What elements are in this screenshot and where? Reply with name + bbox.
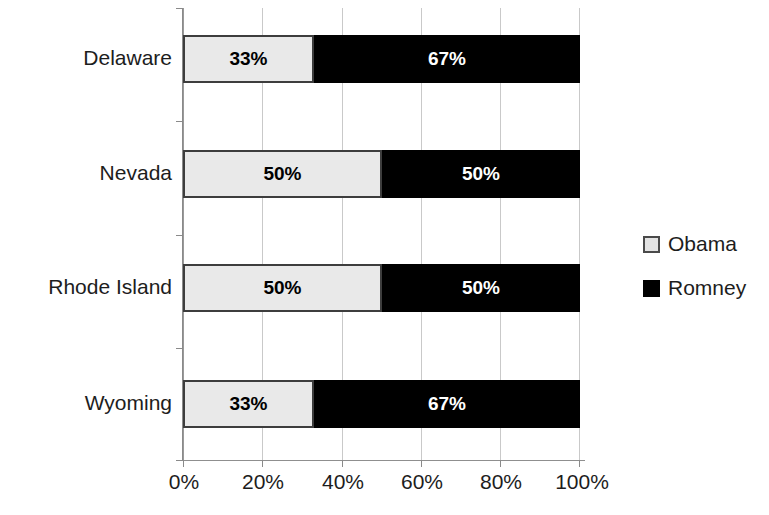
chart-legend: Obama Romney [643,222,769,310]
y-axis-tick-0 [176,8,183,9]
y-axis-line [182,8,183,460]
x-axis-tick-0 [183,460,184,467]
x-axis-tick-40 [342,460,343,467]
bar-segment-romney-nevada: 50% [382,150,580,198]
bar-row-wyoming: 33% 67% [183,380,580,428]
y-axis-tick-3 [176,348,183,349]
legend-swatch-obama-icon [643,236,660,253]
legend-label-obama: Obama [668,232,737,256]
category-label-rhode-island: Rhode Island [0,275,172,299]
x-tick-label-0: 0% [169,470,199,494]
y-axis-tick-2 [176,235,183,236]
y-axis-category-labels: Delaware Nevada Rhode Island Wyoming [0,0,172,515]
x-axis-tick-labels: 0% 20% 40% 60% 80% 100% [0,470,769,510]
category-label-nevada: Nevada [0,161,172,185]
x-tick-label-60: 60% [401,470,443,494]
x-axis-tick-80 [500,460,501,467]
x-tick-label-40: 40% [322,470,364,494]
stacked-bar-chart: 33% 67% 50% 50% 50% 50% 33% 67% Delaware… [0,0,769,515]
legend-swatch-romney-icon [643,280,660,297]
bar-row-delaware: 33% 67% [183,35,580,83]
x-axis-tick-100 [579,460,580,467]
y-axis-tick-4 [176,460,183,461]
x-axis-line [178,460,585,461]
x-axis-tick-20 [262,460,263,467]
y-axis-tick-1 [176,121,183,122]
category-label-delaware: Delaware [0,46,172,70]
bar-segment-obama-delaware: 33% [183,35,314,83]
bar-segment-romney-rhode-island: 50% [382,264,580,312]
bar-segment-obama-rhode-island: 50% [183,264,382,312]
plot-area: 33% 67% 50% 50% 50% 50% 33% 67% [183,8,580,460]
bar-row-nevada: 50% 50% [183,150,580,198]
bar-segment-obama-nevada: 50% [183,150,382,198]
bar-segment-romney-wyoming: 67% [314,380,580,428]
x-tick-label-80: 80% [480,470,522,494]
legend-item-obama[interactable]: Obama [643,222,769,266]
legend-label-romney: Romney [668,276,746,300]
legend-item-romney[interactable]: Romney [643,266,769,310]
category-label-wyoming: Wyoming [0,391,172,415]
x-tick-label-20: 20% [242,470,284,494]
bar-segment-obama-wyoming: 33% [183,380,314,428]
x-tick-label-100: 100% [555,470,609,494]
bar-row-rhode-island: 50% 50% [183,264,580,312]
bar-segment-romney-delaware: 67% [314,35,580,83]
x-axis-tick-60 [421,460,422,467]
